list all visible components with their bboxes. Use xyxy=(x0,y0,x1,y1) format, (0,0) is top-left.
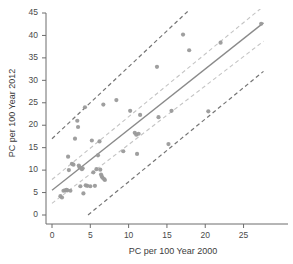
y-tick-label: 0 xyxy=(33,209,38,219)
data-point xyxy=(90,138,94,142)
data-point xyxy=(68,189,72,193)
data-point xyxy=(135,152,139,156)
prediction-band-upper xyxy=(52,11,188,139)
data-point xyxy=(88,184,92,188)
data-point xyxy=(166,142,170,146)
data-point xyxy=(78,184,82,188)
data-point xyxy=(81,166,85,170)
data-point xyxy=(155,65,159,69)
x-tick-label: 5 xyxy=(88,230,93,240)
data-point xyxy=(121,149,125,153)
confidence-band-upper xyxy=(52,6,263,179)
data-point xyxy=(60,195,64,199)
y-axis-title: PC per 100 Year 2012 xyxy=(7,69,17,158)
y-tick-label: 10 xyxy=(29,164,39,174)
x-tick-label: 10 xyxy=(124,230,134,240)
scatter-plot-figure: 0510152025 051015202530354045 PC per 100… xyxy=(0,0,293,264)
y-tick-label: 30 xyxy=(29,75,39,85)
data-point xyxy=(93,184,97,188)
plot-points xyxy=(58,22,263,200)
y-tick-label: 25 xyxy=(29,97,39,107)
data-point xyxy=(103,178,107,182)
y-tick-label: 40 xyxy=(29,30,39,40)
y-axis: 051015202530354045 xyxy=(29,7,46,224)
data-point xyxy=(71,163,75,167)
x-axis: 0510152025 xyxy=(46,224,288,240)
y-tick-label: 5 xyxy=(33,187,38,197)
data-point xyxy=(91,170,95,174)
data-point xyxy=(114,98,118,102)
x-tick-label: 25 xyxy=(239,230,249,240)
data-point xyxy=(259,22,263,26)
data-point xyxy=(98,168,102,172)
data-point xyxy=(218,41,222,45)
data-point xyxy=(169,109,173,113)
y-tick-label: 45 xyxy=(29,7,39,17)
x-tick-label: 20 xyxy=(201,230,211,240)
data-point xyxy=(96,153,100,157)
data-point xyxy=(101,102,105,106)
data-point xyxy=(73,137,77,141)
x-tick-label: 15 xyxy=(162,230,172,240)
data-point xyxy=(156,115,160,119)
data-point xyxy=(128,109,132,113)
y-tick-label: 20 xyxy=(29,119,39,129)
y-tick-label: 15 xyxy=(29,142,39,152)
data-point xyxy=(67,168,71,172)
y-tick-label: 35 xyxy=(29,52,39,62)
plot-bands xyxy=(52,6,263,215)
data-point xyxy=(187,48,191,52)
data-point xyxy=(181,32,185,36)
data-point xyxy=(75,119,79,123)
data-point xyxy=(94,167,98,171)
data-point xyxy=(76,125,80,129)
data-point xyxy=(136,132,140,136)
data-point xyxy=(81,191,85,195)
data-point xyxy=(138,113,142,117)
data-point xyxy=(206,109,210,113)
data-point xyxy=(66,155,70,159)
plot-canvas: 0510152025 051015202530354045 PC per 100… xyxy=(0,0,293,264)
data-point xyxy=(83,105,87,109)
data-point xyxy=(97,139,101,143)
x-tick-label: 0 xyxy=(50,230,55,240)
x-axis-title: PC per 100 Year 2000 xyxy=(129,246,218,256)
